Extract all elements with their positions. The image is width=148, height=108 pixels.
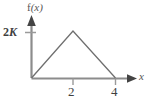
x-axis-arrowhead (127, 74, 137, 83)
triangular-density-figure: f(x) 2K x 2 4 (0, 0, 148, 108)
x-tick-label-2: 2 (68, 85, 75, 98)
density-curve (32, 31, 116, 78)
x-tick-label-4: 4 (111, 85, 118, 98)
x-axis-label: x (139, 71, 144, 82)
y-axis-label: f(x) (27, 2, 43, 13)
y-value-label: 2K (3, 26, 17, 38)
y-axis-arrowhead (27, 15, 36, 26)
